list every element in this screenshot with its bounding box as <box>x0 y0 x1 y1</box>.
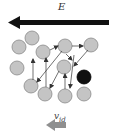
electric-field-arrow <box>8 16 109 29</box>
particle <box>36 45 50 59</box>
particle <box>38 87 52 101</box>
particle <box>12 40 26 54</box>
particles <box>10 31 98 103</box>
particle <box>77 87 91 101</box>
drift-velocity-diagram: E vid <box>0 0 115 138</box>
particle <box>57 60 71 74</box>
highlighted-particle <box>77 70 91 84</box>
field-label: E <box>58 1 65 12</box>
particle <box>58 39 72 53</box>
velocity-label-sub: id <box>59 116 66 124</box>
particle <box>58 89 72 103</box>
particle <box>10 61 24 75</box>
particle <box>24 79 38 93</box>
velocity-label: vid <box>54 111 66 124</box>
particle <box>84 38 98 52</box>
particle <box>25 31 39 45</box>
